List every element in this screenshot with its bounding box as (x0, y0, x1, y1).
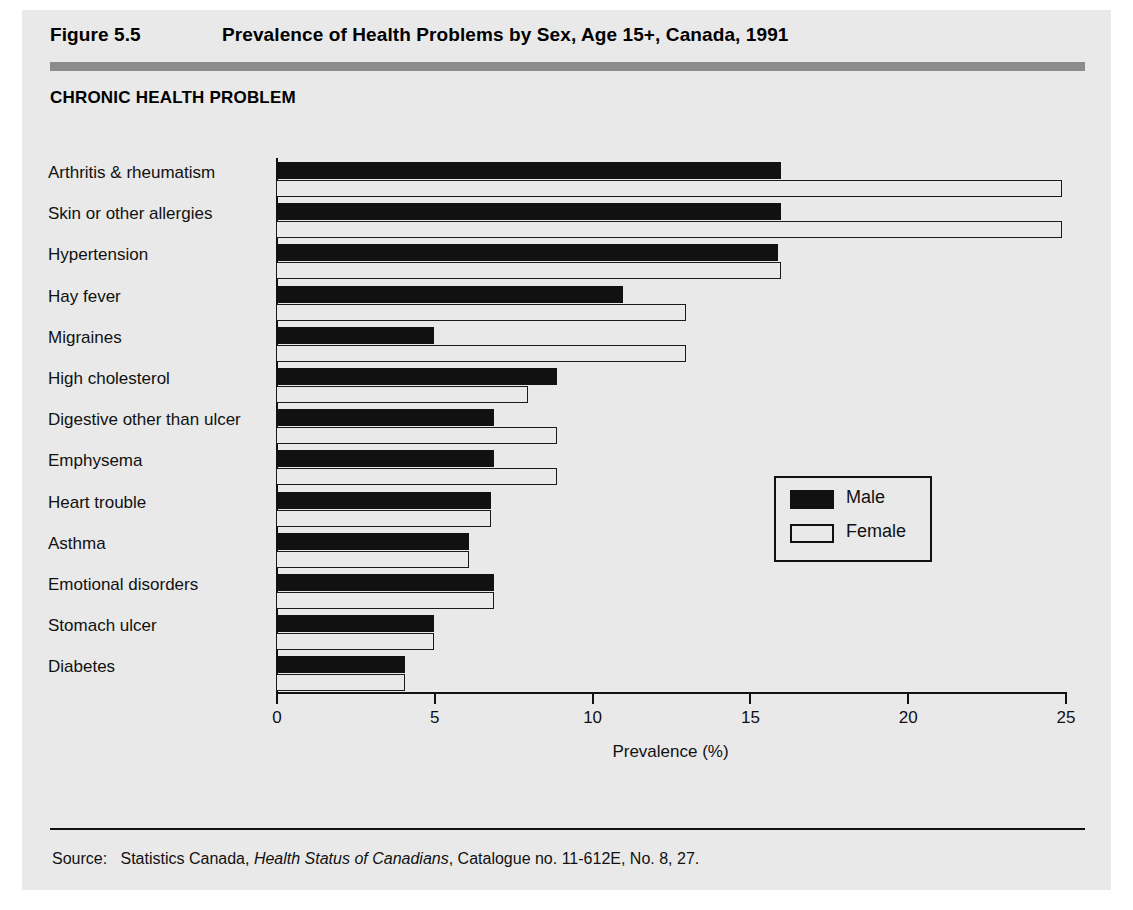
source-note: Source: Statistics Canada, Health Status… (52, 850, 699, 868)
bar-male (276, 203, 781, 220)
legend-swatch-male-icon (790, 490, 834, 509)
bar-male (276, 492, 491, 509)
source-publication-title: Health Status of Canadians (254, 850, 449, 867)
category-label: High cholesterol (48, 369, 170, 389)
category-label: Emotional disorders (48, 575, 198, 595)
x-axis-tick (434, 694, 436, 704)
bar-female (276, 674, 405, 691)
bar-male (276, 574, 494, 591)
bar-male (276, 533, 469, 550)
bar-female (276, 551, 469, 568)
bar-female (276, 386, 528, 403)
source-prefix: Source: (52, 850, 107, 867)
legend-label-male: Male (846, 487, 885, 508)
category-label: Asthma (48, 534, 106, 554)
category-label: Migraines (48, 328, 122, 348)
x-axis-tick (592, 694, 594, 704)
bar-chart-plot-area: 0510152025Prevalence (%)Arthritis & rheu… (22, 10, 1111, 890)
bar-female (276, 592, 494, 609)
category-label: Stomach ulcer (48, 616, 157, 636)
x-axis-tick (907, 694, 909, 704)
category-label: Hay fever (48, 287, 121, 307)
category-label: Hypertension (48, 245, 148, 265)
bar-female (276, 262, 781, 279)
legend-swatch-female-icon (790, 524, 834, 543)
bar-male (276, 286, 623, 303)
x-axis-tick (276, 694, 278, 704)
source-publisher: Statistics Canada, (120, 850, 249, 867)
category-label: Diabetes (48, 657, 115, 677)
chart-legend: Male Female (774, 476, 932, 562)
x-axis-tick-label: 15 (720, 708, 780, 728)
category-label: Skin or other allergies (48, 204, 212, 224)
x-axis-tick (749, 694, 751, 704)
source-catalogue: , Catalogue no. 11-612E, No. 8, 27. (449, 850, 700, 867)
bar-male (276, 162, 781, 179)
x-axis-tick (1065, 694, 1067, 704)
bar-female (276, 221, 1062, 238)
x-axis-tick-label: 10 (563, 708, 623, 728)
category-label: Heart trouble (48, 493, 146, 513)
category-label: Emphysema (48, 451, 142, 471)
x-axis-tick-label: 5 (405, 708, 465, 728)
bar-male (276, 656, 405, 673)
x-axis-tick-label: 0 (247, 708, 307, 728)
bar-female (276, 345, 686, 362)
x-axis-tick-label: 20 (878, 708, 938, 728)
legend-label-female: Female (846, 521, 906, 542)
bar-female (276, 180, 1062, 197)
x-axis-tick-label: 25 (1036, 708, 1096, 728)
figure-panel: Figure 5.5 Prevalence of Health Problems… (22, 10, 1111, 890)
bar-male (276, 450, 494, 467)
bar-female (276, 468, 557, 485)
category-label: Digestive other than ulcer (48, 410, 241, 430)
bar-female (276, 633, 434, 650)
bar-male (276, 327, 434, 344)
x-axis-title: Prevalence (%) (471, 742, 871, 762)
footer-divider (50, 828, 1085, 830)
bar-female (276, 510, 491, 527)
bar-male (276, 615, 434, 632)
bar-female (276, 304, 686, 321)
bar-male (276, 244, 778, 261)
bar-male (276, 368, 557, 385)
bar-male (276, 409, 494, 426)
category-label: Arthritis & rheumatism (48, 163, 215, 183)
x-axis-line (276, 692, 1067, 694)
bar-female (276, 427, 557, 444)
